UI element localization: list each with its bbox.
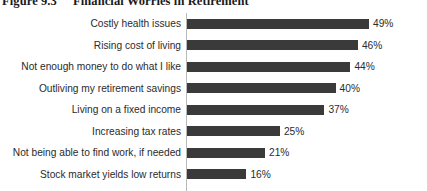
bar-category-label: Stock market yields low returns	[40, 164, 181, 186]
bar-value-label: 25%	[284, 121, 304, 143]
bar-row: Stock market yields low returns16%	[0, 164, 427, 186]
bar-row: Rising cost of living46%	[0, 35, 427, 57]
bar-value-label: 16%	[250, 164, 270, 186]
chart-plot-area: Costly health issues49%Rising cost of li…	[0, 13, 427, 191]
bar-category-label: Increasing tax rates	[92, 121, 181, 143]
bar	[187, 19, 369, 29]
bar-category-label: Living on a fixed income	[72, 99, 181, 121]
bar-row: Outliving my retirement savings40%	[0, 78, 427, 100]
bar-category-label: Rising cost of living	[94, 35, 181, 57]
bar-category-label: Costly health issues	[90, 13, 181, 35]
bar-value-label: 44%	[354, 56, 374, 78]
bar	[187, 148, 265, 158]
bar-category-label: Not enough money to do what I like	[21, 56, 181, 78]
bar-value-label: 46%	[362, 35, 382, 57]
bar	[187, 105, 324, 115]
bar-row: Living on a fixed income37%	[0, 99, 427, 121]
bar	[187, 62, 350, 72]
figure-number: Figure 9.3	[2, 0, 57, 8]
bar-row: Increasing tax rates25%	[0, 121, 427, 143]
bar-row: Not enough money to do what I like44%	[0, 56, 427, 78]
bar-value-label: 49%	[373, 13, 393, 35]
figure-title: Figure 9.3Financial Worries in Retiremen…	[2, 0, 422, 8]
bar-value-label: 40%	[340, 78, 360, 100]
bar-category-label: Outliving my retirement savings	[39, 78, 181, 100]
bar-row: Not being able to find work, if needed21…	[0, 142, 427, 164]
bar-row: Costly health issues49%	[0, 13, 427, 35]
bar-category-label: Not being able to find work, if needed	[13, 142, 181, 164]
bar-value-label: 37%	[328, 99, 348, 121]
bar	[187, 40, 358, 50]
figure-container: Figure 9.3Financial Worries in Retiremen…	[0, 0, 427, 191]
figure-title-text: Financial Worries in Retirement	[73, 0, 249, 8]
bar	[187, 83, 336, 93]
bar-value-label: 21%	[269, 142, 289, 164]
bar	[187, 126, 280, 136]
bar	[187, 169, 246, 179]
